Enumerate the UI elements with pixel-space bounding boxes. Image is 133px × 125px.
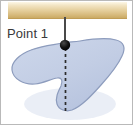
frame-bottom-edge bbox=[0, 124, 133, 125]
diagram-canvas: Point 1 bbox=[0, 0, 133, 125]
pivot-point[interactable] bbox=[60, 40, 70, 50]
physics-figure: Point 1 bbox=[0, 0, 133, 125]
ceiling-group bbox=[8, 2, 127, 19]
frame-right-edge bbox=[132, 0, 133, 125]
frame-left-edge bbox=[0, 0, 1, 125]
point-1-label: Point 1 bbox=[7, 26, 48, 41]
frame-top-edge bbox=[0, 0, 133, 1]
ceiling-bar bbox=[8, 2, 127, 19]
